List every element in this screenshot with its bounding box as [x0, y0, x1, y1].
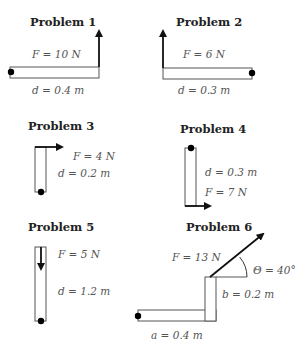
problem-1-distance-label: d = 0.4 m — [32, 84, 84, 96]
problem-2-force-label: F = 6 N — [182, 48, 226, 60]
problem-3-lever — [35, 147, 46, 192]
problem-4: Problem 4 d = 0.3 m F = 7 N — [180, 122, 257, 206]
problem-3-distance-label: d = 0.2 m — [58, 167, 110, 179]
problem-6-angle-arc — [240, 257, 247, 277]
problem-4-lever — [185, 148, 196, 206]
torque-problems-diagram: Problem 1 F = 10 N d = 0.4 m Problem 2 F… — [0, 0, 308, 354]
problem-6-lever-vertical — [205, 277, 216, 321]
problem-5-title: Problem 5 — [28, 220, 94, 234]
problem-4-distance-label: d = 0.3 m — [205, 166, 257, 178]
problem-6-distance-a-label: a = 0.4 m — [151, 329, 203, 341]
problem-3-title: Problem 3 — [28, 119, 94, 133]
problem-1-title: Problem 1 — [30, 15, 96, 29]
problem-3: Problem 3 F = 4 N d = 0.2 m — [28, 119, 116, 195]
problem-5-pivot — [38, 318, 44, 324]
problem-5-force-label: F = 5 N — [57, 248, 101, 260]
problem-1-force-label: F = 10 N — [31, 48, 81, 60]
problem-3-pivot — [38, 189, 44, 195]
problem-3-force-label: F = 4 N — [72, 150, 116, 162]
problem-2: Problem 2 F = 6 N d = 0.3 m — [163, 15, 255, 96]
problem-6-force-label: F = 13 N — [171, 251, 221, 263]
problem-4-title: Problem 4 — [180, 122, 246, 136]
problem-1: Problem 1 F = 10 N d = 0.4 m — [8, 15, 99, 96]
problem-5-distance-label: d = 1.2 m — [58, 285, 110, 297]
problem-6-lever-horizontal — [138, 310, 216, 321]
problem-4-pivot — [188, 145, 194, 151]
problem-5: Problem 5 F = 5 N d = 1.2 m — [28, 220, 110, 324]
problem-4-force-label: F = 7 N — [204, 186, 248, 198]
problem-2-pivot — [249, 70, 255, 76]
problem-6: Problem 6 F = 13 N Θ = 40° b = 0.2 m a =… — [135, 220, 296, 341]
problem-1-pivot — [8, 69, 14, 75]
problem-6-title: Problem 6 — [186, 220, 252, 234]
problem-2-distance-label: d = 0.3 m — [178, 84, 230, 96]
problem-6-pivot — [135, 313, 141, 319]
problem-1-lever — [10, 67, 99, 78]
problem-6-angle-label: Θ = 40° — [253, 264, 296, 276]
problem-2-lever — [163, 68, 252, 79]
problem-6-distance-b-label: b = 0.2 m — [222, 288, 274, 300]
problem-2-title: Problem 2 — [176, 15, 242, 29]
